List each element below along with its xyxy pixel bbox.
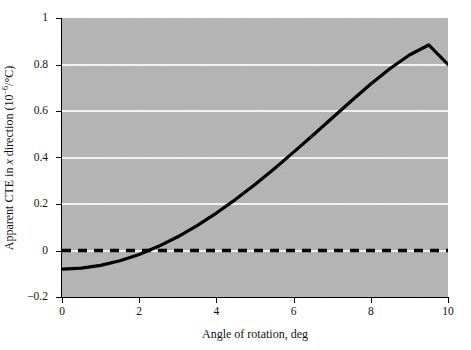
y-axis-label-wrap: Apparent CTE in x direction (10−6/°C) xyxy=(0,18,18,297)
x-axis-tick-label: 8 xyxy=(368,306,374,318)
x-axis-tick xyxy=(139,298,140,303)
x-axis-tick xyxy=(216,298,217,303)
y-axis-tick-label: −0.2 xyxy=(27,291,48,303)
y-axis-label-mid: direction (10 xyxy=(2,94,16,159)
plot-area xyxy=(62,18,448,297)
x-axis-tick xyxy=(371,298,372,303)
cte-curve xyxy=(62,45,448,269)
x-axis-tick-label: 4 xyxy=(214,306,220,318)
y-axis-tick xyxy=(56,297,61,298)
y-axis-tick xyxy=(56,65,61,66)
y-axis-label: Apparent CTE in x direction (10−6/°C) xyxy=(3,65,15,249)
x-axis-tick-label: 2 xyxy=(136,306,142,318)
y-axis-tick-label: 0.2 xyxy=(34,198,48,210)
chart-series-layer xyxy=(62,18,448,297)
x-axis-label: Angle of rotation, deg xyxy=(62,328,448,340)
y-axis-tick xyxy=(56,18,61,19)
chart-figure: 10.80.60.40.20−0.2 0246810 Angle of rota… xyxy=(0,0,471,350)
x-axis-tick-label: 0 xyxy=(59,306,65,318)
y-axis-tick-label: 0.8 xyxy=(34,59,48,71)
x-axis-tick-label: 6 xyxy=(291,306,297,318)
x-axis-tick xyxy=(294,298,295,303)
x-axis-tick xyxy=(62,298,63,303)
y-axis-tick-label: 1 xyxy=(42,12,48,24)
y-axis-tick-label: 0.4 xyxy=(34,152,48,164)
y-axis-tick-label: 0.6 xyxy=(34,105,48,117)
x-axis-tick xyxy=(448,298,449,303)
y-axis-line xyxy=(61,18,62,298)
y-axis-label-italic: x xyxy=(2,159,16,164)
y-axis-tick xyxy=(56,251,61,252)
y-axis-tick xyxy=(56,204,61,205)
y-axis-label-exponent: −6 xyxy=(1,85,10,94)
x-axis-tick-label: 10 xyxy=(442,306,454,318)
y-axis-label-prefix: Apparent CTE in xyxy=(2,164,16,250)
y-axis-tick xyxy=(56,157,61,158)
x-axis-line xyxy=(61,297,449,298)
y-axis-label-tail: /°C) xyxy=(2,65,16,85)
y-axis-tick xyxy=(56,111,61,112)
y-axis-tick-label: 0 xyxy=(42,245,48,257)
